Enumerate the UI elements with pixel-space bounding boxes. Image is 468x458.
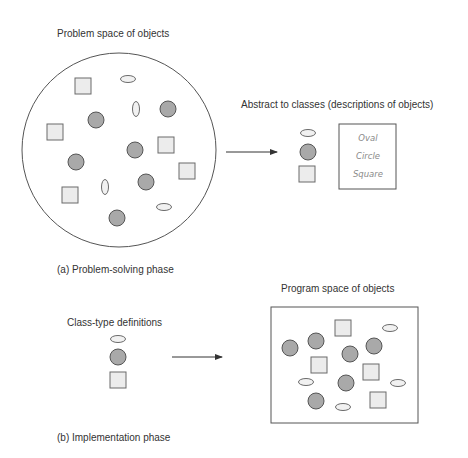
oval-object-icon: [121, 76, 136, 83]
circle-object-icon: [338, 375, 354, 391]
square-object-icon: [179, 163, 195, 179]
class-shape-icons: [299, 130, 316, 183]
problem-solving-phase: Problem space of objects Abstract to cla…: [22, 28, 433, 275]
program-space-title: Program space of objects: [281, 283, 394, 294]
circle-object-icon: [342, 346, 358, 362]
oval-object-icon: [299, 379, 314, 386]
problem-space-title: Problem space of objects: [57, 28, 169, 39]
oval-object-icon: [133, 102, 140, 117]
oop-phases-diagram: Problem space of objects Abstract to cla…: [0, 0, 468, 458]
abstract-label: Abstract to classes (descriptions of obj…: [241, 99, 433, 110]
square-object-icon: [110, 372, 126, 388]
square-object-icon: [75, 78, 91, 94]
class-type-definition-icons: [110, 336, 126, 389]
circle-object-icon: [110, 349, 126, 365]
square-object-icon: [335, 320, 351, 336]
oval-object-icon: [391, 380, 406, 387]
oval-object-icon: [157, 204, 172, 211]
square-object-icon: [363, 364, 379, 380]
implementation-phase: Class-type definitions Program space of …: [57, 283, 418, 443]
circle-object-icon: [160, 101, 176, 117]
square-object-icon: [311, 357, 327, 373]
oval-object-icon: [336, 404, 351, 411]
class-name-square: Square: [353, 169, 383, 179]
class-name-circle: Circle: [356, 151, 380, 161]
square-object-icon: [62, 187, 78, 203]
class-name-oval: Oval: [358, 133, 378, 143]
circle-object-icon: [308, 333, 324, 349]
circle-object-icon: [109, 210, 125, 226]
square-object-icon: [370, 392, 386, 408]
class-type-definitions-label: Class-type definitions: [67, 317, 162, 328]
square-object-icon: [158, 137, 174, 153]
circle-object-icon: [282, 340, 298, 356]
oval-object-icon: [383, 325, 398, 332]
square-object-icon: [47, 124, 63, 140]
phase-a-caption: (a) Problem-solving phase: [57, 264, 174, 275]
problem-space-objects: [47, 76, 195, 227]
circle-object-icon: [88, 112, 104, 128]
circle-object-icon: [366, 338, 382, 354]
phase-b-caption: (b) Implementation phase: [57, 432, 171, 443]
oval-object-icon: [111, 336, 126, 343]
circle-object-icon: [127, 142, 143, 158]
oval-object-icon: [102, 180, 109, 195]
program-space-objects: [282, 320, 406, 411]
square-object-icon: [299, 166, 315, 182]
circle-object-icon: [300, 144, 316, 160]
circle-object-icon: [68, 154, 84, 170]
circle-object-icon: [138, 174, 154, 190]
circle-object-icon: [308, 393, 324, 409]
oval-object-icon: [301, 130, 316, 137]
